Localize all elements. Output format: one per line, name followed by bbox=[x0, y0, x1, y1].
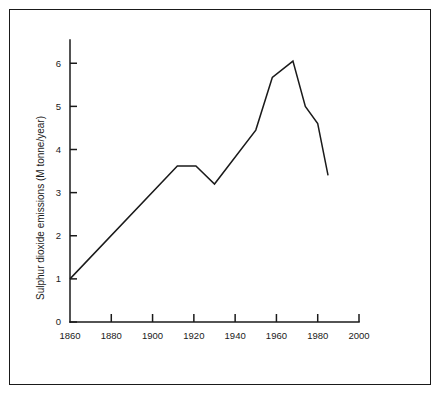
y-tick-label-5: 5 bbox=[56, 101, 61, 112]
y-axis-title: Sulphur dioxide emissions (M tonne/year) bbox=[35, 116, 46, 300]
x-tick-label-1940: 1940 bbox=[225, 330, 246, 341]
x-axis-tick-labels: 18601880190019201940196019802000 bbox=[59, 330, 369, 341]
y-axis-ticks bbox=[70, 63, 77, 322]
data-series-line-0 bbox=[70, 61, 328, 279]
x-tick-label-1960: 1960 bbox=[266, 330, 287, 341]
x-tick-label-1900: 1900 bbox=[142, 330, 163, 341]
x-tick-label-1920: 1920 bbox=[183, 330, 204, 341]
y-tick-label-3: 3 bbox=[56, 187, 61, 198]
y-tick-label-1: 1 bbox=[56, 273, 61, 284]
x-tick-label-2000: 2000 bbox=[348, 330, 369, 341]
x-tick-label-1860: 1860 bbox=[59, 330, 80, 341]
y-tick-label-4: 4 bbox=[56, 144, 61, 155]
y-tick-label-6: 6 bbox=[56, 58, 61, 69]
y-axis-tick-labels: 0123456 bbox=[56, 58, 61, 328]
chart-plot-area: 0123456 18601880190019201940196019802000… bbox=[0, 0, 440, 394]
y-tick-label-0: 0 bbox=[56, 316, 61, 327]
chart-figure: 0123456 18601880190019201940196019802000… bbox=[0, 0, 440, 394]
x-axis-ticks bbox=[111, 314, 359, 322]
y-tick-label-2: 2 bbox=[56, 230, 61, 241]
data-series-group bbox=[70, 61, 328, 279]
x-tick-label-1980: 1980 bbox=[307, 330, 328, 341]
x-tick-label-1880: 1880 bbox=[101, 330, 122, 341]
